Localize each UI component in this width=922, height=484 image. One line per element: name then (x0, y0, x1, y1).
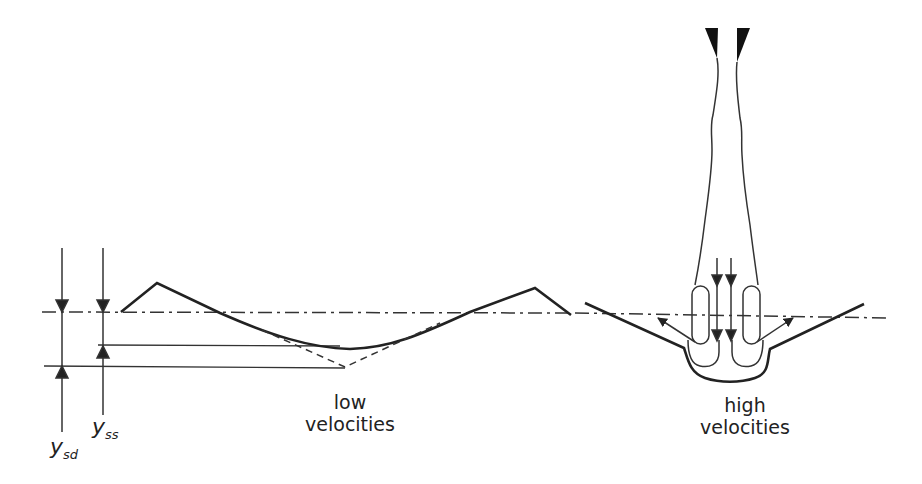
scour-diagram: low velocities high velocities ysd yss (0, 0, 922, 484)
low-label-line1: low (290, 391, 410, 413)
high-velocities-label: high velocities (685, 394, 805, 438)
jet-nozzle-icon (705, 28, 750, 62)
ysd-symbol: ysd (50, 434, 78, 462)
dashed-static-profile (262, 323, 440, 367)
low-velocities-label: low velocities (290, 391, 410, 435)
reference-lines (44, 345, 345, 368)
high-velocity-scour-hole (585, 303, 864, 382)
yss-dimension (97, 248, 109, 415)
low-velocity-scour-profile (121, 283, 571, 349)
high-label-line2: velocities (685, 416, 805, 438)
yss-symbol: yss (92, 414, 119, 442)
recirculation-vortices (688, 286, 763, 367)
jet-stream (695, 58, 758, 285)
downward-flow-arrows (712, 258, 736, 341)
high-label-line1: high (685, 394, 805, 416)
low-label-line2: velocities (290, 413, 410, 435)
ysd-dimension (56, 248, 68, 432)
